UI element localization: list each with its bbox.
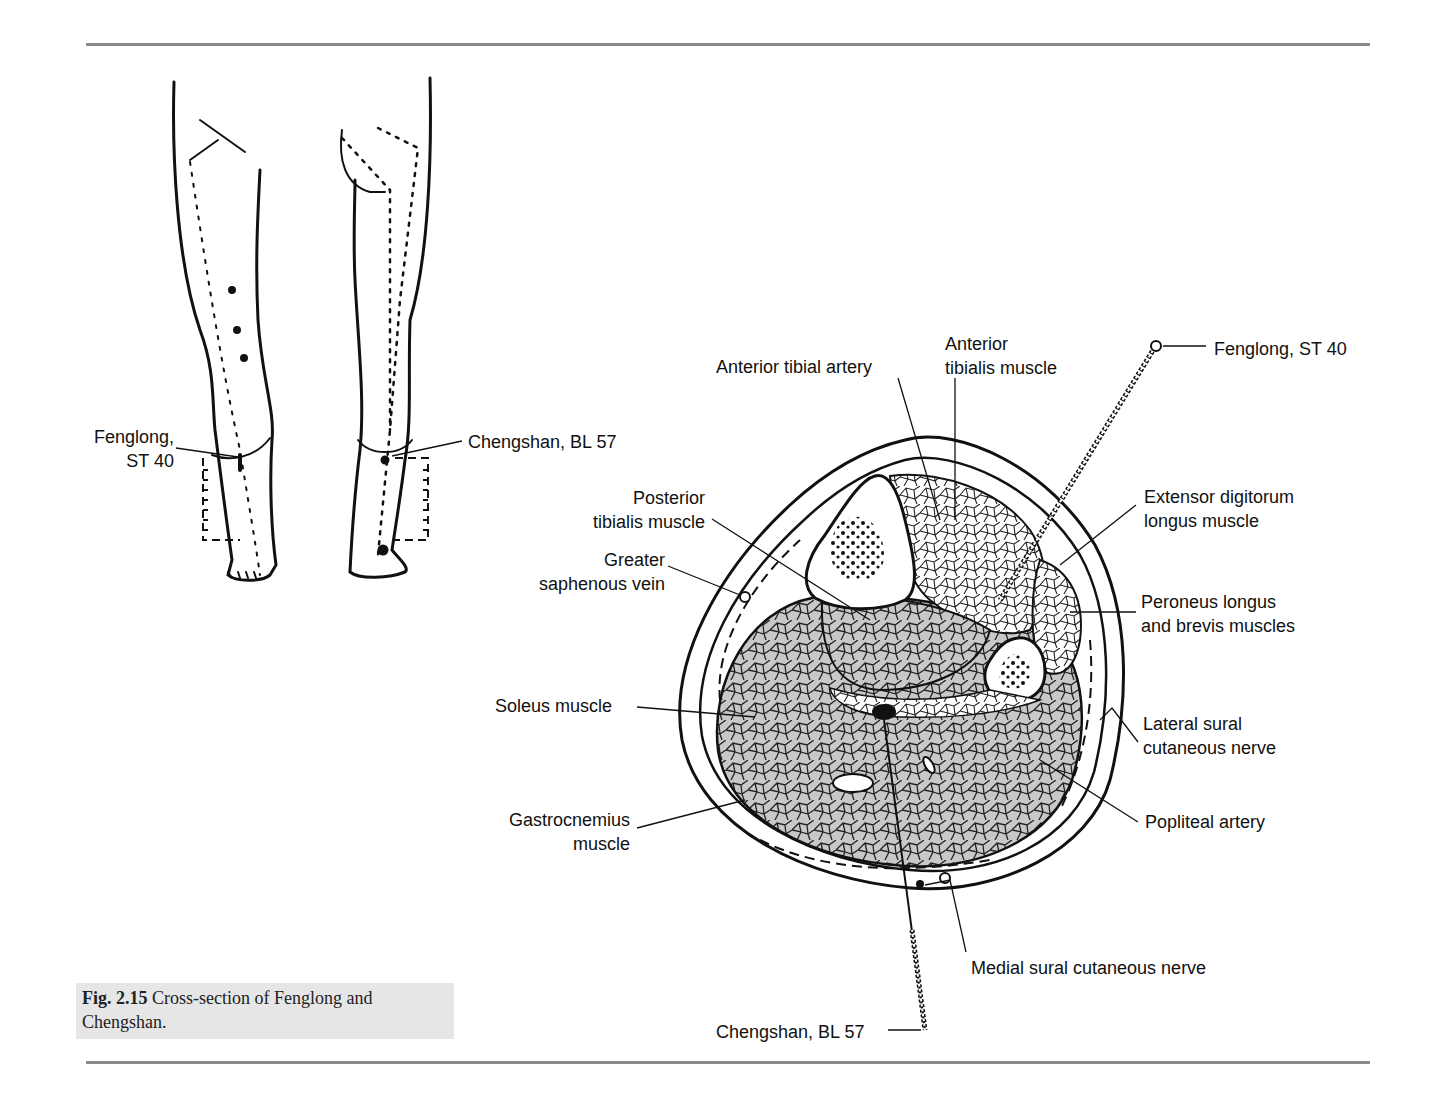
- label-line: saphenous vein: [510, 572, 665, 596]
- label-line: Posterior: [560, 486, 705, 510]
- label-line: tibialis muscle: [945, 356, 1057, 380]
- label-anterior-tibialis-muscle: Anterior tibialis muscle: [945, 332, 1057, 380]
- leg-leader-lines: [176, 441, 462, 457]
- label-line: Extensor digitorum: [1144, 485, 1294, 509]
- label-soleus-muscle: Soleus muscle: [495, 694, 612, 718]
- label-line: cutaneous nerve: [1143, 736, 1276, 760]
- label-line: Peroneus longus: [1141, 590, 1295, 614]
- leg-back-view: [341, 78, 431, 577]
- label-line: Fenglong,: [60, 425, 174, 449]
- label-line: Gastrocnemius: [470, 808, 630, 832]
- label-extensor-digitorum-longus: Extensor digitorum longus muscle: [1144, 485, 1294, 533]
- label-line: Lateral sural: [1143, 712, 1276, 736]
- label-line: Anterior: [945, 332, 1057, 356]
- illustration: [0, 0, 1442, 1112]
- label-anterior-tibial-artery: Anterior tibial artery: [716, 355, 872, 379]
- label-chengshan-leg: Chengshan, BL 57: [468, 430, 616, 454]
- label-line: longus muscle: [1144, 509, 1294, 533]
- label-fenglong-leg: Fenglong, ST 40: [60, 425, 174, 473]
- label-line: and brevis muscles: [1141, 614, 1295, 638]
- label-line: Greater: [510, 548, 665, 572]
- label-fenglong-st40: Fenglong, ST 40: [1214, 337, 1347, 361]
- label-line: ST 40: [60, 449, 174, 473]
- label-line: muscle: [470, 832, 630, 856]
- label-peroneus-muscles: Peroneus longus and brevis muscles: [1141, 590, 1295, 638]
- label-line: tibialis muscle: [560, 510, 705, 534]
- label-popliteal-artery: Popliteal artery: [1145, 810, 1265, 834]
- label-medial-sural-cutaneous-nerve: Medial sural cutaneous nerve: [971, 956, 1206, 980]
- label-lateral-sural-cutaneous-nerve: Lateral sural cutaneous nerve: [1143, 712, 1276, 760]
- label-gastrocnemius-muscle: Gastrocnemius muscle: [470, 808, 630, 856]
- label-posterior-tibialis-muscle: Posterior tibialis muscle: [560, 486, 705, 534]
- figure-caption: Fig. 2.15 Cross-section of Fenglong and …: [76, 983, 454, 1039]
- label-chengshan-bl57: Chengshan, BL 57: [716, 1020, 864, 1044]
- label-greater-saphenous-vein: Greater saphenous vein: [510, 548, 665, 596]
- cross-section-drawing: [680, 341, 1161, 1030]
- figure-number: Fig. 2.15: [82, 988, 148, 1008]
- leg-front-view: [174, 82, 276, 580]
